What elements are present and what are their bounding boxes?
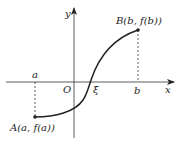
point-b-dot xyxy=(136,28,140,32)
y-axis-label: y xyxy=(64,8,71,19)
tick-label-b: b xyxy=(134,85,140,96)
tick-label-a: a xyxy=(32,69,38,80)
point-b-label: B(b, f(b)) xyxy=(115,15,162,26)
tick-label-xi: ξ xyxy=(93,84,99,95)
function-graph: y x O a ξ b A(a, f(a)) B(b, f(b)) xyxy=(0,0,181,150)
x-axis-label: x xyxy=(165,84,171,95)
origin-label: O xyxy=(63,84,71,95)
point-a-dot xyxy=(33,115,37,119)
point-a-label: A(a, f(a)) xyxy=(9,122,55,133)
function-curve xyxy=(35,30,138,117)
